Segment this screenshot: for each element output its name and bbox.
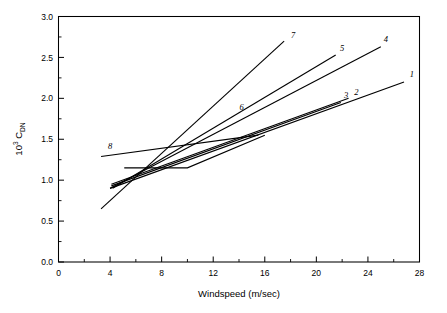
y-tick-label: 2.0	[41, 93, 53, 103]
series-label-4: 4	[384, 34, 389, 44]
svg-text:103 CDN: 103 CDN	[12, 122, 25, 156]
x-axis-ticks	[59, 257, 420, 263]
y-axis-title-mantissa: 10	[13, 145, 24, 156]
x-tick-label: 0	[56, 268, 61, 278]
data-series-lines	[101, 41, 404, 209]
y-tick-label: 1.5	[41, 134, 53, 144]
x-tick-label: 24	[363, 268, 373, 278]
data-line-4	[110, 47, 381, 189]
y-axis-title-subscript: DN	[19, 122, 26, 132]
y-tick-label: 0.0	[41, 257, 53, 267]
x-tick-label: 12	[208, 268, 218, 278]
data-line-7	[101, 41, 284, 209]
series-label-5: 5	[340, 43, 344, 53]
figure-container: 0481216202428 0.00.51.01.52.02.53.0 1234…	[0, 0, 447, 313]
x-tick-label: 28	[415, 268, 425, 278]
y-tick-label: 0.5	[41, 216, 53, 226]
series-label-1: 1	[410, 69, 414, 79]
x-axis-tick-labels: 0481216202428	[56, 268, 424, 278]
y-tick-label: 1.0	[41, 175, 53, 185]
series-label-7: 7	[291, 30, 296, 40]
y-tick-label: 2.5	[41, 53, 53, 63]
x-axis-title: Windspeed (m/sec)	[198, 288, 280, 299]
series-label-2: 2	[354, 87, 359, 97]
series-label-3: 3	[343, 90, 348, 100]
y-axis-ticks	[59, 17, 65, 263]
x-tick-label: 16	[260, 268, 270, 278]
data-line-8	[101, 135, 258, 156]
x-tick-label: 8	[159, 268, 164, 278]
series-label-6: 6	[239, 102, 244, 112]
series-label-8: 8	[108, 141, 113, 151]
y-axis-title: 103 CDN	[12, 122, 25, 156]
data-line-3	[111, 102, 340, 185]
y-tick-label: 3.0	[41, 12, 53, 22]
y-axis-tick-labels: 0.00.51.01.52.02.53.0	[41, 12, 53, 268]
data-line-2	[111, 98, 348, 184]
series-end-labels: 12345678	[108, 30, 414, 151]
drag-coefficient-chart: 0481216202428 0.00.51.01.52.02.53.0 1234…	[0, 0, 447, 313]
x-tick-label: 4	[108, 268, 113, 278]
x-tick-label: 20	[312, 268, 322, 278]
